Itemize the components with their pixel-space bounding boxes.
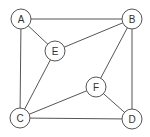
edge-c-d [20,118,132,119]
node-b: B [122,9,142,29]
node-label: D [128,114,135,125]
node-label: A [18,14,25,25]
graph-svg: ABCDEF [0,0,150,137]
edge-f-c [20,87,96,118]
edge-a-c [20,19,21,118]
edge-b-f [96,19,132,87]
node-label: F [93,82,99,93]
node-label: C [16,113,23,124]
node-label: B [129,14,136,25]
edge-e-b [55,19,132,51]
node-e: E [45,41,65,61]
edges-group [20,19,132,119]
node-d: D [122,109,142,129]
node-a: A [11,9,31,29]
graph-diagram: ABCDEF [0,0,150,137]
edge-e-c [20,51,55,118]
node-f: F [86,77,106,97]
node-label: E [52,46,59,57]
node-c: C [10,108,30,128]
